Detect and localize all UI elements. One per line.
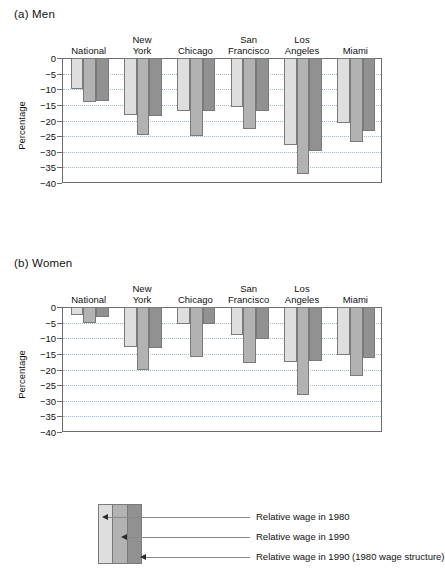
panel-a-y-axis: Percentage 0−5−10−15−20−25−30−35−40	[0, 58, 62, 183]
y-tick-label: −40	[40, 427, 56, 438]
bar-miami-1990-1980-structure	[363, 307, 376, 358]
y-tick-label: −10	[40, 333, 56, 344]
y-tick-label: −20	[40, 115, 56, 126]
bar-miami-1990-1980-structure	[363, 58, 376, 131]
bar-los-angeles-1990-1980-structure	[309, 58, 322, 151]
bar-new-york-1980	[124, 58, 137, 115]
bar-miami-1980	[337, 307, 350, 355]
bar-san-francisco-1990-1980-structure	[256, 58, 269, 111]
panel-a-title: (a) Men	[14, 8, 55, 20]
y-tick-label: −30	[40, 146, 56, 157]
y-tick-label: −20	[40, 364, 56, 375]
bar-san-francisco-1990-1980-structure	[256, 307, 269, 339]
y-tick-label: 0	[51, 53, 56, 64]
bar-san-francisco-1980	[231, 307, 244, 335]
legend-swatch-1990-1980-structure	[128, 505, 141, 563]
panel-b-category-labels: NationalNew YorkChicagoSan FranciscoLos …	[62, 271, 382, 305]
legend-leader-line	[146, 557, 250, 558]
bar-chicago-1990-1980-structure	[203, 307, 216, 324]
y-tick-label: −35	[40, 411, 56, 422]
y-tick-label: −25	[40, 380, 56, 391]
y-tick-label: −10	[40, 84, 56, 95]
bar-new-york-1980	[124, 307, 137, 347]
bar-chicago-1980	[177, 58, 190, 111]
panel-b-title: (b) Women	[14, 257, 72, 269]
legend-label: Relative wage in 1980	[256, 510, 349, 524]
y-tick-mark	[57, 432, 62, 433]
bar-chicago-1990	[190, 58, 203, 136]
legend-arrow-icon	[121, 534, 127, 540]
bar-national-1980	[71, 58, 84, 89]
bar-miami-1990	[350, 307, 363, 376]
bar-san-francisco-1980	[231, 58, 244, 107]
y-tick-label: −15	[40, 99, 56, 110]
chart-legend: Relative wage in 1980Relative wage in 19…	[0, 498, 392, 578]
bar-national-1990-1980-structure	[96, 307, 109, 317]
bar-chicago-1990-1980-structure	[203, 58, 216, 111]
y-tick-label: −35	[40, 162, 56, 173]
bar-national-1990-1980-structure	[96, 58, 109, 101]
bar-new-york-1990	[137, 307, 150, 370]
y-tick-label: −15	[40, 348, 56, 359]
legend-label: Relative wage in 1990 (1980 wage structu…	[256, 550, 445, 564]
y-tick-label: −30	[40, 395, 56, 406]
bar-national-1980	[71, 307, 84, 315]
bar-miami-1990	[350, 58, 363, 142]
y-tick-label: −40	[40, 178, 56, 189]
bar-san-francisco-1990	[243, 307, 256, 363]
bar-los-angeles-1980	[284, 307, 297, 362]
panel-a-plot-area	[62, 58, 382, 183]
bar-national-1990	[83, 307, 96, 323]
panel-a-category-labels: NationalNew YorkChicagoSan FranciscoLos …	[62, 22, 382, 56]
bar-los-angeles-1990-1980-structure	[309, 307, 322, 361]
y-tick-label: 0	[51, 302, 56, 313]
bar-new-york-1990-1980-structure	[149, 307, 162, 348]
bar-new-york-1990	[137, 58, 150, 135]
bar-miami-1980	[337, 58, 350, 123]
panel-b-plot-area	[62, 307, 382, 432]
panel-b-bars	[63, 307, 381, 431]
legend-arrow-icon	[102, 514, 108, 520]
panel-b-y-axis: Percentage 0−5−10−15−20−25−30−35−40	[0, 307, 62, 432]
y-tick-label: −5	[45, 317, 56, 328]
panel-a-bars	[63, 58, 381, 182]
bar-chicago-1980	[177, 307, 190, 324]
category-label-miami: Miami	[321, 45, 390, 56]
bar-san-francisco-1990	[243, 58, 256, 129]
legend-leader-line	[108, 517, 250, 518]
y-tick-mark	[57, 183, 62, 184]
panel-b-y-axis-title: Percentage	[16, 330, 27, 420]
legend-label: Relative wage in 1990	[256, 530, 349, 544]
bar-los-angeles-1990	[297, 58, 310, 174]
y-tick-label: −25	[40, 131, 56, 142]
y-tick-label: −5	[45, 68, 56, 79]
bar-new-york-1990-1980-structure	[149, 58, 162, 116]
bar-los-angeles-1980	[284, 58, 297, 145]
bar-chicago-1990	[190, 307, 203, 357]
category-label-miami: Miami	[321, 294, 390, 305]
panel-a-y-axis-title: Percentage	[16, 81, 27, 171]
bar-los-angeles-1990	[297, 307, 310, 395]
legend-leader-line	[127, 537, 250, 538]
bar-national-1990	[83, 58, 96, 102]
legend-arrow-icon	[140, 554, 146, 560]
